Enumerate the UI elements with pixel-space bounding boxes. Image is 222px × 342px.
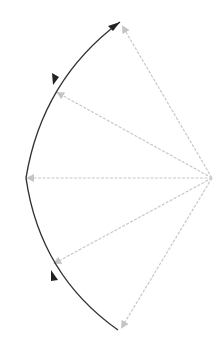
arc-vector-diagram — [0, 0, 222, 342]
arc-path — [26, 22, 120, 330]
arc-arrows-group — [51, 22, 120, 281]
diagram-canvas — [0, 0, 222, 342]
ray-lower — [55, 178, 212, 263]
ray-bottom — [122, 178, 212, 327]
arc-arrow-lower-icon — [51, 270, 58, 281]
ray-upper — [58, 93, 212, 178]
rays-group — [28, 27, 212, 327]
ray-top — [123, 27, 212, 178]
arc-arrow-upper-icon — [52, 73, 59, 85]
